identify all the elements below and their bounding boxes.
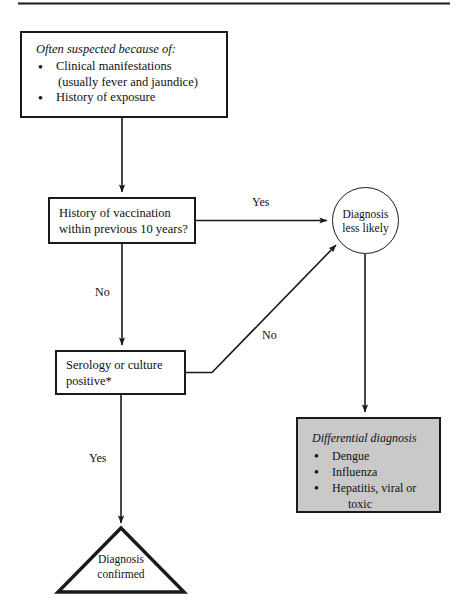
list-item: Dengue [312,448,433,464]
edge-label-serology-yes: Yes [89,451,106,465]
node-vaccination-question: History of vaccination within previous 1… [48,197,196,244]
list-item: Clinical manifestations (usually fever a… [36,59,218,90]
edge-label-vaccination-yes: Yes [252,195,269,209]
differential-bullet-2-continuation: toxic [332,496,433,512]
suspicion-bullet-0-continuation: (usually fever and jaundice) [56,75,218,91]
vaccination-line-1: History of vaccination [59,205,194,221]
differential-bullet-2-text: Hepatitis, viral or [332,481,416,495]
list-item: Hepatitis, viral or toxic [312,480,433,512]
node-serology-question: Serology or culture positive* [55,350,186,395]
node-diagnosis-less-likely: Diagnosis less likely [332,187,399,254]
vaccination-line-2: within previous 10 years? [59,221,194,237]
differential-bullet-list: Dengue Influenza Hepatitis, viral or tox… [312,448,433,512]
edge-label-serology-no: No [262,328,277,342]
flowchart-figure: Often suspected because of: Clinical man… [0,0,460,613]
serology-line-1: Serology or culture [66,357,184,373]
node-suspicion: Often suspected because of: Clinical man… [20,31,228,118]
list-item: Influenza [312,464,433,480]
serology-line-2: positive* [66,373,184,389]
triangle-diagnosis-confirmed [58,528,184,592]
differential-bullet-0-text: Dengue [332,449,369,463]
node-differential-diagnosis: Differential diagnosis Dengue Influenza … [296,417,441,513]
less-likely-line-1: Diagnosis [343,207,389,221]
edge-label-vaccination-no: No [95,285,110,299]
differential-bullet-1-text: Influenza [332,465,377,479]
suspicion-heading: Often suspected because of: [36,42,218,57]
list-item: History of exposure [36,90,218,106]
suspicion-bullet-list: Clinical manifestations (usually fever a… [36,59,218,106]
differential-heading: Differential diagnosis [312,431,433,446]
edge-serology-no [186,245,336,373]
suspicion-bullet-1-text: History of exposure [56,90,155,104]
suspicion-bullet-0-text: Clinical manifestations [56,59,172,73]
less-likely-line-2: less likely [342,221,388,235]
